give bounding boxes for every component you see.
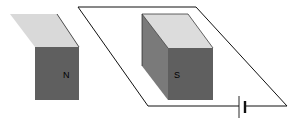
magnet-n-label: N <box>63 70 70 80</box>
magnet-n: N <box>10 14 79 100</box>
magnet-s: S <box>142 14 213 100</box>
diagram-canvas: N S <box>0 0 295 124</box>
magnet-s-label: S <box>174 70 180 80</box>
magnet-n-front-face <box>35 47 79 100</box>
battery-icon <box>239 96 245 118</box>
magnet-n-top-face <box>10 14 79 47</box>
magnet-loop-diagram: N S <box>0 0 295 124</box>
